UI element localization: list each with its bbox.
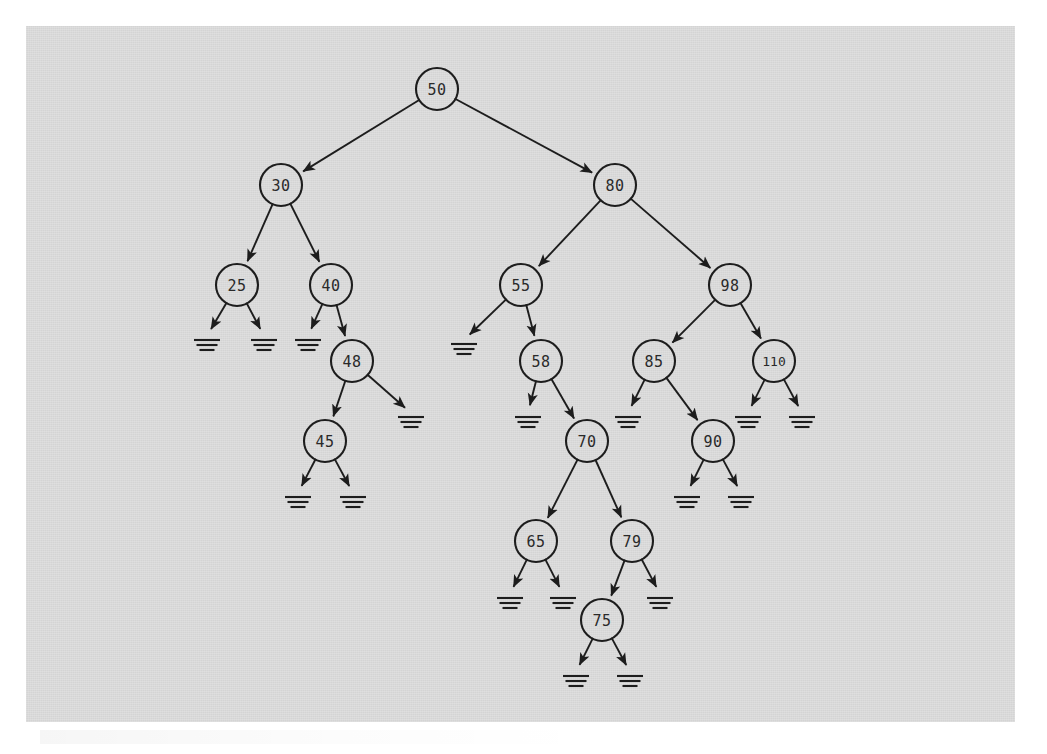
tree-node-25[interactable]: 25 [216,264,258,306]
node-label-110: 110 [762,354,785,369]
null-edge-65-left [514,559,528,587]
node-label-25: 25 [227,277,246,295]
tree-edge-55-to-58 [526,304,534,336]
node-label-75: 75 [592,612,611,630]
binary-search-tree-diagram: 50308025405598485885110457090657975 [0,0,1047,754]
node-label-79: 79 [622,533,641,551]
tree-node-70[interactable]: 70 [566,420,608,462]
null-leaf-n65-left [497,598,523,608]
tree-edge-80-to-98 [630,198,710,268]
null-edge-25-left [211,302,227,329]
node-label-48: 48 [342,353,361,371]
tree-node-30[interactable]: 30 [260,164,302,206]
null-edge-85-left [632,379,645,406]
null-leaf-n110-right [789,417,815,427]
tree-edge-48-to-45 [333,380,345,416]
node-label-98: 98 [720,277,739,295]
node-label-90: 90 [703,433,722,451]
null-edge-110-right [783,379,798,406]
null-edge-75-left [580,638,593,665]
null-leaf-n65-right [550,598,576,608]
tree-edge-30-to-40 [290,203,319,262]
node-label-70: 70 [577,433,596,451]
tree-node-48[interactable]: 48 [331,340,373,382]
null-edge-45-left [302,459,316,486]
tree-edge-85-to-90 [666,377,698,420]
tree-node-58[interactable]: 58 [520,340,562,382]
tree-node-55[interactable]: 55 [500,264,542,306]
null-edge-48-right [367,374,405,407]
node-label-80: 80 [605,177,624,195]
null-edge-90-right [722,459,737,486]
node-label-45: 45 [315,433,334,451]
tree-edge-98-to-85 [672,299,715,342]
null-edge-110-left [752,379,765,406]
null-leaf-n75-right [617,676,643,686]
null-leaf-n110-left [735,417,761,427]
tree-edge-98-to-110 [740,302,761,338]
null-edge-58-left [530,380,536,405]
null-leaf-n25-left [194,340,220,350]
null-edge-25-right [246,303,260,329]
null-edge-55-left [470,299,507,335]
null-leaf-n48-right [398,417,424,427]
null-leaf-n55-left [451,344,477,354]
node-label-65: 65 [526,533,545,551]
tree-edge-58-to-70 [551,378,574,418]
tree-edge-30-to-25 [247,203,272,261]
tree-edge-50-to-80 [455,98,593,172]
tree-node-110[interactable]: 110 [753,340,795,382]
tree-node-85[interactable]: 85 [633,340,675,382]
null-leaf-n85-left [615,417,641,427]
null-leaf-n58-left [515,417,541,427]
nodes-layer: 50308025405598485885110457090657975 [216,68,795,641]
null-leaf-n45-right [340,497,366,507]
null-edge-79-right [641,559,656,587]
tree-edge-40-to-48 [336,304,345,336]
tree-node-90[interactable]: 90 [692,420,734,462]
page-canvas: 50308025405598485885110457090657975 [0,0,1047,754]
node-label-85: 85 [644,353,663,371]
null-edge-90-left [691,459,704,486]
tree-edge-79-to-75 [611,560,625,596]
node-label-58: 58 [531,353,550,371]
null-leaf-n90-left [674,497,700,507]
node-label-30: 30 [271,177,290,195]
tree-edge-70-to-79 [595,459,621,517]
null-leaf-n45-left [285,497,311,507]
tree-node-98[interactable]: 98 [709,264,751,306]
null-leaf-n25-right [251,340,277,350]
null-leaf-n75-left [563,676,589,686]
tree-node-65[interactable]: 65 [515,520,557,562]
tree-node-79[interactable]: 79 [611,520,653,562]
tree-edge-80-to-55 [539,200,601,266]
node-label-55: 55 [511,277,530,295]
null-leaf-n90-right [728,497,754,507]
tree-node-80[interactable]: 80 [594,164,636,206]
tree-node-50[interactable]: 50 [416,68,458,110]
null-edge-45-right [334,459,349,486]
null-edge-65-right [545,559,559,587]
null-edge-75-right [611,638,626,665]
node-label-40: 40 [321,277,340,295]
tree-node-40[interactable]: 40 [310,264,352,306]
null-leaf-n79-right [647,598,673,608]
tree-edge-70-to-65 [548,459,578,518]
null-leaves-layer [194,340,815,686]
tree-edge-50-to-30 [303,99,420,171]
null-leaf-n40-left [295,340,321,350]
tree-node-75[interactable]: 75 [581,599,623,641]
node-label-50: 50 [427,81,446,99]
tree-node-45[interactable]: 45 [304,420,346,462]
edges-layer [211,98,798,664]
null-edge-40-left [311,303,322,328]
